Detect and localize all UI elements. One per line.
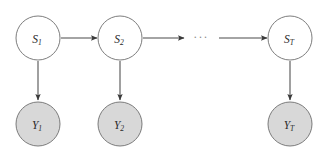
observed-node-y2[interactable]: Y2: [98, 102, 142, 146]
emission-edge-group: [38, 61, 290, 100]
state-node-st[interactable]: ST: [268, 16, 312, 60]
hmm-diagram: ··· S1 S2 ST Y1 Y2 YT: [0, 0, 316, 155]
observed-node-y1[interactable]: Y1: [16, 102, 60, 146]
state-node-s1[interactable]: S1: [16, 16, 60, 60]
sequence-ellipsis: ···: [193, 30, 209, 44]
observed-node-yt[interactable]: YT: [268, 102, 312, 146]
hmm-diagram-canvas: ··· S1 S2 ST Y1 Y2 YT: [0, 0, 316, 155]
state-node-s2[interactable]: S2: [98, 16, 142, 60]
